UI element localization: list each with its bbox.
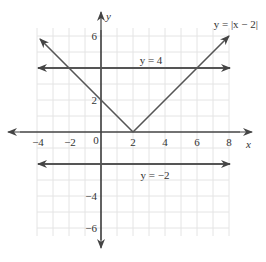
- x-tick-labels: −4 −2 0 2 4 6 8: [32, 134, 232, 148]
- svg-text:−4: −4: [85, 190, 97, 202]
- graph: y x −4 −2 0 2 4 6 8 6 2 −4 −6 y = |x − 2…: [0, 0, 266, 262]
- svg-text:2: 2: [130, 136, 136, 148]
- svg-text:2: 2: [92, 94, 98, 106]
- svg-text:0: 0: [93, 134, 99, 146]
- svg-text:8: 8: [226, 136, 232, 148]
- abs-left-branch: [40, 39, 133, 132]
- label-abs-equation: y = |x − 2|: [214, 18, 258, 30]
- svg-text:6: 6: [194, 136, 200, 148]
- y-axis-label: y: [105, 10, 111, 22]
- svg-text:4: 4: [162, 136, 168, 148]
- svg-text:−2: −2: [64, 136, 76, 148]
- label-y-minus-2: y = −2: [141, 169, 170, 181]
- svg-text:−4: −4: [32, 136, 44, 148]
- svg-text:6: 6: [92, 30, 98, 42]
- x-axis-label: x: [245, 138, 251, 150]
- label-y-4: y = 4: [140, 54, 163, 66]
- svg-text:−6: −6: [85, 222, 97, 234]
